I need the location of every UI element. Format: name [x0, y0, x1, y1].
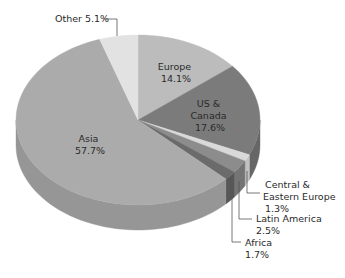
- pie-chart: Europe 14.1% US & Canada 17.6% Asia 57.7…: [0, 0, 345, 278]
- label-other: Other 5.1%: [55, 13, 109, 24]
- label-africa: Africa 1.7%: [245, 237, 275, 260]
- label-latin-america: Latin America 2.5%: [256, 213, 325, 236]
- label-central-eastern-europe: Central & Eastern Europe 1.3%: [263, 179, 339, 214]
- label-asia: Asia 57.7%: [75, 133, 105, 156]
- label-europe: Europe 14.1%: [158, 61, 194, 84]
